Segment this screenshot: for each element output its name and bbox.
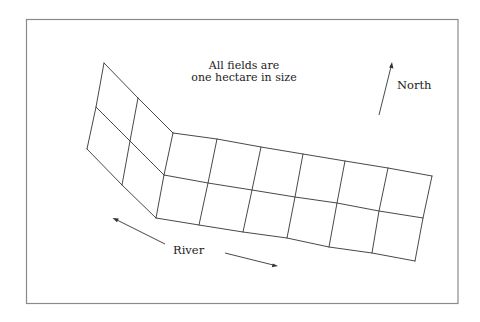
north-arrow-icon (379, 62, 393, 115)
field-map-diagram: All fields are one hectare in size North… (0, 0, 480, 322)
right-section-right-edge (415, 176, 432, 261)
river-upstream-arrow-icon (113, 218, 166, 244)
field-size-note-line-1: All fields are (208, 59, 279, 72)
right-section-middle-line (164, 175, 423, 218)
left-section-top-edge (104, 63, 173, 133)
left-section-inner-column (122, 98, 138, 185)
right-section-column-2 (243, 147, 261, 232)
river-downstream-arrow-icon (225, 253, 278, 267)
river-label: River (173, 243, 205, 257)
north-label: North (397, 78, 432, 92)
field-size-note-line-2: one hectare in size (191, 71, 296, 84)
left-section-left-edge (87, 63, 104, 149)
left-section-bottom-edge (87, 149, 156, 218)
